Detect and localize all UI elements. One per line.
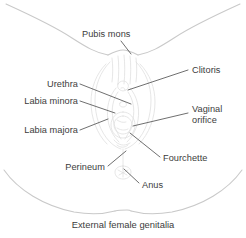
anus-radiating-3: [119, 170, 128, 175]
label-perineum: Perineum: [35, 162, 105, 173]
mons-shading-2: [118, 56, 119, 84]
label-vaginal-orifice: Vaginal orifice: [192, 104, 246, 126]
leader-line-pubis-mons: [121, 41, 131, 54]
urethral-meatus: [120, 102, 127, 108]
upper-right-thigh-outline: [138, 4, 240, 55]
labia-minora-right-inner: [125, 92, 134, 139]
fourchette-fold: [114, 140, 130, 145]
vestibule-texture-2: [117, 128, 128, 130]
vulva-sketch-group: [91, 55, 155, 179]
lower-left-thigh-outline: [4, 170, 115, 214]
mons-shading-3: [124, 55, 125, 84]
hymenal-ring: [114, 116, 132, 134]
labia-majora-right-outer: [139, 64, 155, 144]
perineal-body-outline: [115, 210, 131, 211]
labia-minora-right: [127, 88, 139, 142]
clitoral-glans: [121, 88, 125, 90]
lower-right-thigh-outline: [131, 170, 242, 214]
leader-line-vaginal-orifice: [133, 113, 188, 126]
leader-line-anus: [124, 169, 139, 183]
mons-shading-5: [136, 58, 137, 82]
mons-shading-1: [112, 58, 113, 82]
mons-shading-4: [130, 56, 131, 84]
labia-majora-left-outer: [91, 64, 107, 144]
label-fourchette: Fourchette: [163, 153, 207, 164]
anatomical-figure: Pubis mons Clitoris Urethra Labia minora…: [0, 0, 246, 238]
labia-minora-left-inner: [112, 92, 121, 139]
label-anus: Anus: [142, 180, 163, 191]
mons-pubis-crest: [108, 50, 138, 55]
leader-line-labia-minora: [80, 101, 115, 113]
clitoral-hood: [118, 81, 129, 91]
label-labia-majora: Labia majora: [8, 125, 78, 136]
leader-line-urethra: [80, 84, 131, 104]
label-urethra: Urethra: [8, 79, 78, 90]
label-clitoris: Clitoris: [192, 65, 220, 76]
label-pubis-mons: Pubis mons: [82, 29, 131, 40]
vestibule-texture-1: [117, 120, 126, 122]
label-labia-minora: Labia minora: [8, 96, 78, 107]
labia-minora-left: [107, 88, 119, 142]
figure-caption: External female genitalia: [0, 219, 246, 230]
